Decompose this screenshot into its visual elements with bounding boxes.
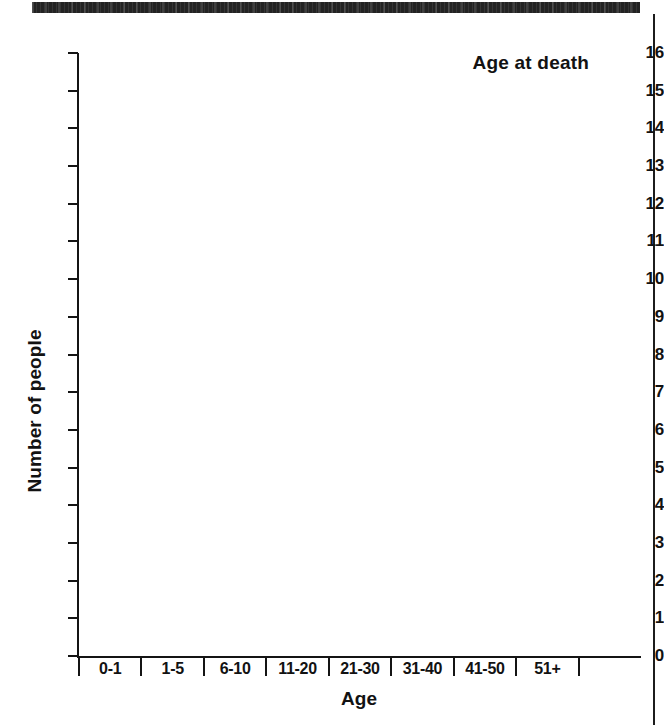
x-axis-category-label: 6-10 [204, 660, 266, 678]
x-axis-category-label: 11-20 [266, 660, 328, 678]
y-axis-tick [68, 655, 78, 657]
y-axis-tick [68, 354, 78, 356]
x-axis-line [77, 656, 641, 658]
y-axis-tick [68, 391, 78, 393]
y-axis-tick [68, 90, 78, 92]
x-axis-category-label: 41-50 [454, 660, 516, 678]
y-axis-title: Number of people [24, 261, 46, 561]
y-axis-tick [68, 278, 78, 280]
plot-surface[interactable] [79, 53, 641, 656]
x-axis-category-label: 51+ [516, 660, 578, 678]
x-axis-category-label: 21-30 [329, 660, 391, 678]
histogram-chart: Age at death Number of people 1615141312… [0, 0, 664, 725]
y-axis-tick [68, 203, 78, 205]
y-axis-tick [68, 52, 78, 54]
x-axis-category-label: 31-40 [391, 660, 453, 678]
x-axis-category-label: 1-5 [141, 660, 203, 678]
x-axis-category-label: 0-1 [79, 660, 141, 678]
y-axis-tick [68, 127, 78, 129]
y-axis-tick [68, 617, 78, 619]
y-axis-tick [68, 316, 78, 318]
y-axis-tick [68, 467, 78, 469]
y-axis-tick [68, 580, 78, 582]
y-axis-tick [68, 504, 78, 506]
y-axis-tick [68, 542, 78, 544]
y-axis-tick [68, 240, 78, 242]
x-axis-title: Age [77, 688, 641, 710]
y-axis-tick [68, 429, 78, 431]
y-axis-tick [68, 165, 78, 167]
